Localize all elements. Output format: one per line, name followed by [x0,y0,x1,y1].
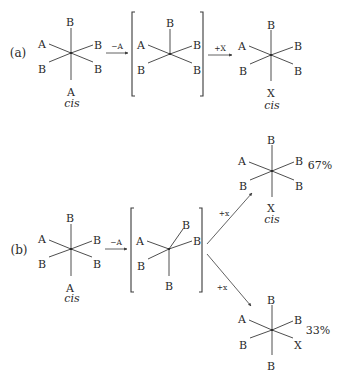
loss-arrow-b-label: −A [110,238,122,247]
ligand-b: B [165,280,173,293]
ligand-b: B [94,63,102,76]
ligand-b: B [193,64,201,77]
bond-line [272,171,294,180]
bond-layer [49,12,294,355]
product-molecule-b-1 [249,305,293,355]
bond-line [49,249,71,257]
bond-line [148,249,169,259]
metal-center-dot [168,248,170,250]
product-molecule-b-0 [249,145,294,197]
bond-line [271,47,293,55]
ligand-b: B [66,212,74,225]
ligand-a: A [237,313,247,326]
metal-center-dot [169,53,171,55]
bond-line [250,171,272,180]
ligand-b: B [239,180,247,193]
ligand-b: B [93,234,101,247]
bracket-left-icon [131,208,134,292]
bond-line [169,229,183,249]
bond-line [169,241,192,249]
bond-line [71,249,92,257]
ligand-b: B [137,260,145,273]
addition-arrow-a-label: +X [214,44,226,53]
ligand-b: B [193,235,201,248]
ligand-a: A [37,38,47,51]
bond-line [249,320,272,330]
isomer-label: cis [64,292,80,305]
yield-percentage: 33% [306,324,330,337]
ligand-b: B [295,180,303,193]
ligand-b: B [294,314,302,327]
ligand-b: B [38,63,46,76]
intermediate-molecule-a [148,29,192,63]
reactant-molecule-a [49,28,93,80]
bond-line [49,53,71,62]
ligand-b: B [193,39,201,52]
bond-line [272,321,293,330]
bond-line [170,46,192,54]
bond-line [147,241,169,249]
metal-center-dot [271,329,273,331]
addition-arrow-b-0 [207,193,252,244]
ligand-b: B [166,17,174,30]
bond-line [148,54,170,63]
ligand-b: B [267,19,275,32]
ligand-b: B [94,39,102,52]
bond-line [49,240,71,249]
bond-line [148,45,170,54]
ligand-b: B [137,64,145,77]
bond-line [249,46,271,55]
bond-line [49,44,71,53]
bracket-right-icon [199,208,202,292]
reaction-diagram: (a)BABBBAcis−ABABBB+XBABBBXcis(b)BABBBAc… [0,0,351,381]
ligand-b: B [294,65,302,78]
addition-arrow-b-1 [207,254,251,306]
intermediate-molecule-b [147,229,192,276]
ligand-b: B [93,258,101,271]
ligand-b: B [66,16,74,29]
bond-line [249,162,272,171]
ligand-b: B [295,155,303,168]
part-label-b: (b) [10,243,27,257]
reactant-molecule-b [49,224,92,276]
metal-center-dot [70,248,72,250]
ligand-b: B [239,339,247,352]
bracket-left-icon [132,12,135,96]
bond-line [71,241,92,249]
reaction-scheme-svg: (a)BABBBAcis−ABABBB+XBABBBXcis(b)BABBBAc… [0,0,351,381]
ligand-b: B [239,65,247,78]
ligand-b: B [38,258,46,271]
bond-line [71,53,93,62]
ligand-b: B [182,219,190,232]
bond-line [170,54,192,63]
isomer-label: cis [64,97,80,110]
ligand-x: X [294,339,302,352]
isomer-label: cis [264,99,280,112]
loss-arrow-a-label: −A [111,42,123,51]
bond-line [271,55,293,64]
label-layer: (a)BABBBAcis−ABABBB+XBABBBXcis(b)BABBBAc… [10,16,332,373]
ligand-a: A [135,235,145,248]
bond-line [250,55,271,64]
bracket-right-icon [200,12,203,96]
metal-center-dot [70,52,72,54]
bond-line [71,45,93,53]
metal-center-dot [270,54,272,56]
ligand-b: B [294,40,302,53]
isomer-label: cis [264,213,280,226]
product-molecule-a-0 [249,30,293,81]
ligand-a: A [136,39,146,52]
ligand-b: B [267,360,275,373]
part-label-a: (a) [10,46,27,60]
bond-line [250,330,272,338]
addition-arrow-b-0-label: +x [219,209,230,218]
addition-arrow-b-1-label: +x [217,283,228,292]
ligand-a: A [37,233,47,246]
bond-line [272,330,293,338]
ligand-a: A [237,155,247,168]
bond-line [272,162,294,171]
ligand-b: B [267,294,275,307]
yield-percentage: 67% [308,159,332,172]
metal-center-dot [271,170,273,172]
ligand-a: A [237,40,247,53]
